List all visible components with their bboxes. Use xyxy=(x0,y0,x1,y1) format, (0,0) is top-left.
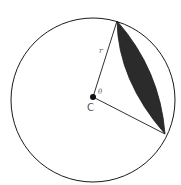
radius-label: r xyxy=(99,47,103,55)
radius-line-upper xyxy=(93,21,117,97)
shaded-segment xyxy=(117,21,165,134)
diagram-canvas xyxy=(0,0,181,185)
center-point xyxy=(90,94,96,100)
angle-label: θ xyxy=(98,89,102,96)
center-label: C xyxy=(87,103,94,113)
